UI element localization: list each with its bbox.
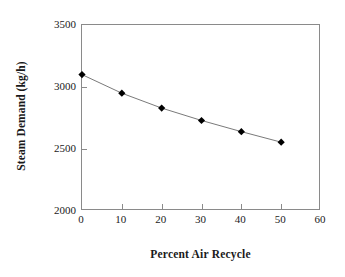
data-point-marker xyxy=(118,90,125,97)
y-axis-tick-mark xyxy=(82,87,87,88)
x-axis-tick-label: 60 xyxy=(305,214,335,225)
x-axis-tick-label: 50 xyxy=(265,214,295,225)
x-axis-tick-label: 20 xyxy=(146,214,176,225)
y-axis-tick-label: 3500 xyxy=(30,19,76,30)
data-point-marker xyxy=(198,117,205,124)
chart-container: Steam Demand (kg/h) 2000250030003500 010… xyxy=(0,0,345,277)
x-axis-tick-label: 10 xyxy=(106,214,136,225)
x-axis-tick-mark xyxy=(202,204,203,209)
y-axis-tick-label-group: 2000250030003500 xyxy=(26,0,76,277)
series-line xyxy=(82,75,281,143)
plot-area xyxy=(81,24,320,210)
x-axis-tick-mark xyxy=(281,204,282,209)
x-axis-tick-mark xyxy=(162,204,163,209)
data-series-layer xyxy=(82,25,321,211)
x-axis-tick-label: 30 xyxy=(186,214,216,225)
data-point-marker xyxy=(278,139,285,146)
x-axis-tick-label: 40 xyxy=(225,214,255,225)
x-axis-title: Percent Air Recycle xyxy=(81,248,320,260)
y-axis-tick-mark xyxy=(82,149,87,150)
data-point-marker xyxy=(238,128,245,135)
data-point-marker xyxy=(158,104,165,111)
x-axis-tick-mark xyxy=(241,204,242,209)
y-axis-tick-label: 2500 xyxy=(30,143,76,154)
y-axis-tick-label: 3000 xyxy=(30,81,76,92)
data-point-marker xyxy=(78,71,85,78)
x-axis-tick-label: 0 xyxy=(66,214,96,225)
x-axis-tick-mark xyxy=(122,204,123,209)
